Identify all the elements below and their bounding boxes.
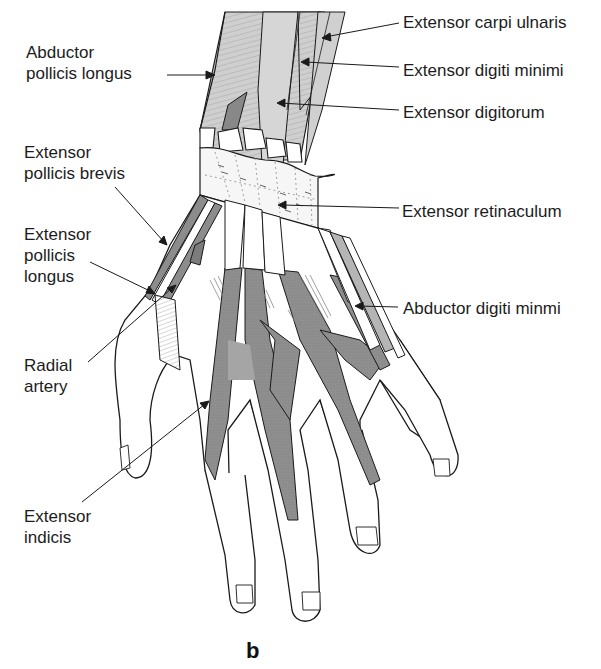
label-extensor-carpi-ulnaris: Extensor carpi ulnaris (403, 12, 566, 33)
label-extensor-digitorum: Extensor digitorum (403, 102, 545, 123)
hand-anatomy-illustration (0, 0, 601, 669)
label-abductor-pollicis-longus: Abductor pollicis longus (26, 42, 132, 84)
label-extensor-digiti-minimi: Extensor digiti minimi (403, 60, 564, 81)
label-extensor-pollicis-brevis: Extensor pollicis brevis (24, 142, 125, 184)
label-extensor-pollicis-longus: Extensor pollicis longus (24, 224, 91, 287)
label-abductor-digiti-minmi: Abductor digiti minmi (403, 298, 561, 319)
label-extensor-retinaculum: Extensor retinaculum (402, 201, 562, 222)
panel-letter: b (246, 638, 259, 664)
label-extensor-indicis: Extensor indicis (24, 506, 91, 548)
label-radial-artery: Radial artery (24, 355, 72, 397)
